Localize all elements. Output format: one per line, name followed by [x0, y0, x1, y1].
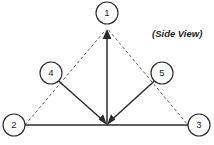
- side-view-diagram: 1 4 5 2 3 (Side View): [0, 0, 214, 145]
- arrow-head-down-left: [99, 114, 107, 125]
- arrow-head-up-apex: [103, 29, 112, 39]
- edge-dashed-1-to-3: [109, 30, 189, 125]
- node-1[interactable]: 1: [96, 2, 118, 24]
- node-1-label: 1: [104, 7, 109, 18]
- diagram-canvas: 1 4 5 2 3 (Side View): [0, 0, 214, 145]
- node-3[interactable]: 3: [188, 114, 210, 136]
- node-2[interactable]: 2: [3, 114, 25, 136]
- node-4[interactable]: 4: [40, 62, 62, 84]
- edge-solid-4-to-center: [59, 81, 103, 120]
- arrow-head-down-right: [107, 114, 115, 125]
- node-2-label: 2: [11, 119, 16, 130]
- node-3-label: 3: [196, 119, 201, 130]
- edge-solid-5-to-center: [112, 81, 155, 120]
- node-5[interactable]: 5: [151, 62, 173, 84]
- node-5-label: 5: [159, 67, 164, 78]
- side-view-caption: (Side View): [152, 28, 202, 39]
- edge-dashed-2-to-1: [25, 30, 106, 125]
- node-4-label: 4: [48, 67, 53, 78]
